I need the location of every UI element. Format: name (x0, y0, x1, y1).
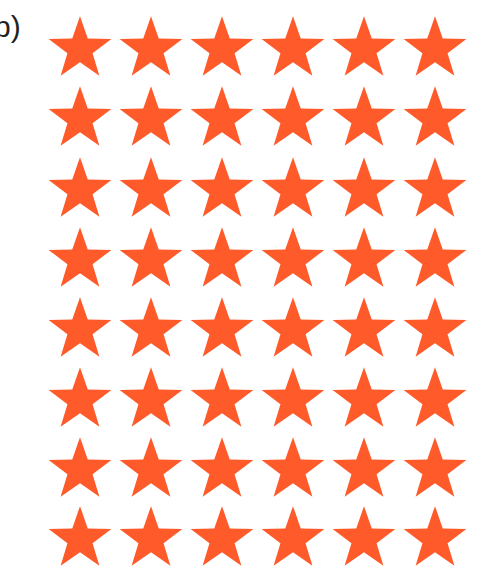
star-icon (47, 155, 113, 218)
star-icon (47, 365, 113, 428)
star-icon (189, 225, 255, 288)
star-icon (402, 84, 468, 147)
star-icon (260, 504, 326, 567)
star-icon (402, 155, 468, 218)
star-icon (331, 14, 397, 77)
star-icon (260, 155, 326, 218)
star-icon (189, 84, 255, 147)
star-icon (331, 225, 397, 288)
star-icon (47, 84, 113, 147)
star-icon (402, 14, 468, 77)
star-icon (260, 14, 326, 77)
star-icon (402, 435, 468, 498)
star-icon (260, 435, 326, 498)
star-icon (189, 14, 255, 77)
star-icon (118, 295, 184, 358)
star-icon (260, 84, 326, 147)
star-icon (260, 365, 326, 428)
star-icon (402, 295, 468, 358)
star-icon (189, 155, 255, 218)
star-icon (118, 435, 184, 498)
star-icon (189, 435, 255, 498)
star-icon (118, 365, 184, 428)
star-icon (118, 155, 184, 218)
star-icon (402, 225, 468, 288)
star-icon (331, 155, 397, 218)
star-icon (189, 365, 255, 428)
star-icon (331, 435, 397, 498)
star-icon (402, 365, 468, 428)
star-icon (47, 14, 113, 77)
star-icon (189, 504, 255, 567)
panel-label: b) (0, 12, 21, 42)
star-icon (47, 295, 113, 358)
star-icon (260, 225, 326, 288)
star-icon (260, 295, 326, 358)
star-icon (47, 504, 113, 567)
star-icon (118, 225, 184, 288)
star-icon (402, 504, 468, 567)
star-icon (118, 14, 184, 77)
star-icon (47, 225, 113, 288)
star-icon (331, 504, 397, 567)
star-icon (47, 435, 113, 498)
star-icon (118, 504, 184, 567)
star-icon (189, 295, 255, 358)
star-icon (331, 84, 397, 147)
star-icon (331, 365, 397, 428)
star-icon (118, 84, 184, 147)
star-icon (331, 295, 397, 358)
